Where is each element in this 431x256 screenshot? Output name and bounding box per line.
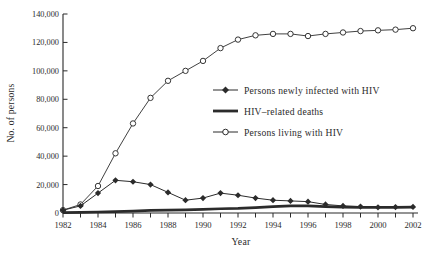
circle-marker [375,28,380,33]
circle-marker [235,37,240,42]
y-tick-label: 100,000 [32,67,59,76]
x-tick-label: 1988 [159,220,176,230]
circle-marker [130,121,135,126]
circle-marker [340,30,345,35]
x-tick-label: 1992 [229,220,246,230]
y-tick-label: 120,000 [32,38,59,47]
diamond-marker [305,199,311,205]
diamond-marker [392,204,398,210]
circle-marker [305,33,310,38]
y-tick-label: 80,000 [36,95,59,104]
x-tick-label: 1984 [89,220,107,230]
diamond-marker [147,181,153,187]
circle-marker [323,31,328,36]
legend-item-newly-infected: Persons newly infected with HIV [213,83,380,97]
y-tick-label: 20,000 [36,181,59,190]
x-tick-label: 1994 [264,220,282,230]
y-axis-title: No. of persons [5,76,17,150]
circle-marker [358,28,363,33]
diamond-marker [182,197,188,203]
circle-marker [270,31,275,36]
circle-marker [113,151,118,156]
y-tick-label: 60,000 [36,124,59,133]
legend-label-deaths: HIV–related deaths [244,106,323,117]
x-tick-label: 1986 [124,220,142,230]
y-tick-label: 0 [55,209,59,218]
legend-item-deaths: HIV–related deaths [213,104,380,118]
x-axis-title: Year [225,236,257,249]
diamond-marker [410,204,416,210]
diamond-marker [200,195,206,201]
circle-marker [288,31,293,36]
circle-line-marker-icon [213,127,238,137]
circle-marker [393,27,398,32]
diamond-marker [375,204,381,210]
thick-line-marker-icon [213,106,238,116]
diamond-marker [357,204,363,210]
circle-marker [183,68,188,73]
legend-item-living: Persons living with HIV [213,125,380,139]
circle-marker [410,26,415,31]
circle-marker [148,95,153,100]
diamond-line-marker-icon [213,85,238,95]
legend-label-newly-infected: Persons newly infected with HIV [244,85,380,96]
circle-marker [165,78,170,83]
y-tick-label: 140,000 [32,10,59,19]
x-tick-label: 1998 [334,220,351,230]
diamond-marker [165,189,171,195]
x-tick-label: 1996 [299,220,317,230]
circle-marker [95,183,100,188]
diamond-marker [270,197,276,203]
x-tick-label: 2000 [369,220,386,230]
legend-label-living: Persons living with HIV [244,127,343,138]
x-tick-label: 1990 [194,220,211,230]
diamond-marker [287,198,293,204]
diamond-marker [217,190,223,196]
diamond-marker [252,195,258,201]
x-tick-label: 2002 [404,220,421,230]
circle-marker [218,45,223,50]
diamond-marker [130,179,136,185]
diamond-marker [235,192,241,198]
circle-marker [200,58,205,63]
x-tick-label: 1982 [54,220,71,230]
chart-legend: Persons newly infected with HIV HIV–rela… [213,83,380,146]
circle-marker [253,33,258,38]
y-tick-label: 40,000 [36,152,59,161]
hiv-epidemic-chart: 020,00040,00060,00080,000100,000120,0001… [0,0,431,256]
